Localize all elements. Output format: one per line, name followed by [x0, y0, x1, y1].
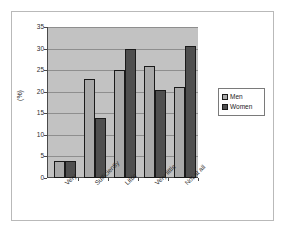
y-axis-tick-label: 30: [28, 45, 44, 52]
bar-group: [168, 27, 198, 178]
y-axis-tick-mark: [44, 49, 47, 50]
bar-group: [138, 27, 168, 178]
bar-group: [108, 27, 138, 178]
y-axis-tick-mark: [44, 70, 47, 71]
x-axis-tick-mark: [138, 178, 139, 181]
legend-item-men[interactable]: Men: [222, 92, 261, 102]
x-axis-tick-mark: [198, 178, 199, 181]
y-axis-tick-mark: [44, 27, 47, 28]
x-axis-tick-mark: [78, 178, 79, 181]
y-axis-tick-label: 5: [28, 153, 44, 160]
y-axis-tick-mark: [44, 178, 47, 179]
bar-men-sufficiently: [84, 79, 95, 178]
bar-women-not-at-all: [185, 46, 196, 178]
chart-figure: (%) 05101520253035 MenWomen VerySufficie…: [0, 0, 287, 241]
y-axis-title: (%): [16, 90, 23, 101]
y-axis-tick-label: 0: [28, 175, 44, 182]
bar-men-very-little: [144, 66, 155, 178]
bar-group: [48, 27, 78, 178]
y-axis-tick-mark: [44, 92, 47, 93]
y-axis-tick-label: 20: [28, 88, 44, 95]
legend-swatch-icon: [222, 94, 228, 100]
bar-men-not-at-all: [174, 87, 185, 178]
y-axis-tick-labels: 05101520253035: [26, 27, 44, 178]
bar-group: [78, 27, 108, 178]
bar-men-very: [54, 161, 65, 178]
y-axis-tick-label: 10: [28, 132, 44, 139]
y-axis-tick-label: 35: [28, 24, 44, 31]
legend-swatch-icon: [222, 104, 228, 110]
y-axis-tick-mark: [44, 135, 47, 136]
legend-item-women[interactable]: Women: [222, 102, 261, 112]
legend-label: Men: [230, 94, 243, 101]
bars-layer: [48, 27, 198, 178]
y-axis-tick-mark: [44, 113, 47, 114]
x-axis-tick-mark: [168, 178, 169, 181]
y-axis-tick-mark: [44, 156, 47, 157]
legend-label: Women: [230, 104, 252, 111]
y-axis-tick-label: 15: [28, 110, 44, 117]
x-axis-tick-mark: [108, 178, 109, 181]
y-axis-tick-label: 25: [28, 67, 44, 74]
bar-women-very-little: [155, 90, 166, 178]
chart-legend: MenWomen: [218, 88, 265, 116]
bar-women-little: [125, 49, 136, 178]
